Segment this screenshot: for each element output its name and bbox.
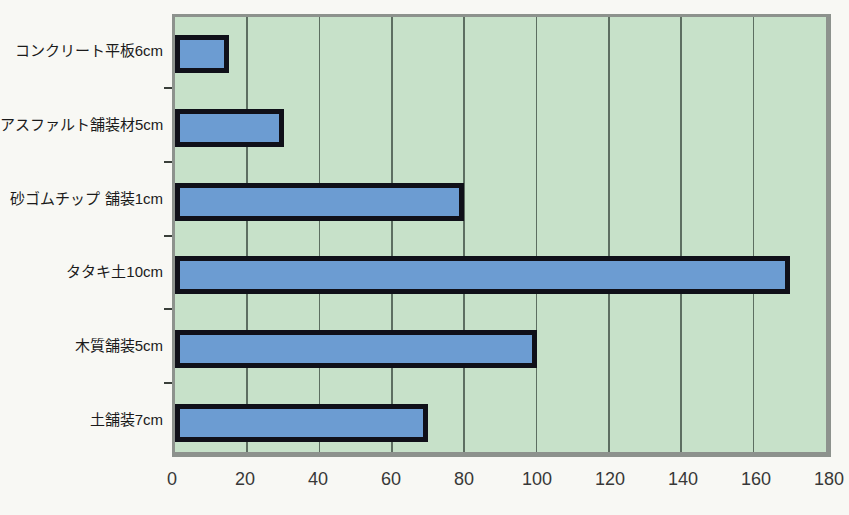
- category-axis-tick-1: [164, 87, 172, 89]
- bar-4: [175, 330, 537, 368]
- category-label-3: タタキ土10cm: [0, 262, 163, 282]
- x-tick-label-180: 180: [799, 469, 849, 490]
- gridline-120: [608, 17, 610, 452]
- category-label-2: 砂ゴムチップ 舗装1cm: [0, 189, 163, 209]
- category-axis-tick-5: [164, 382, 172, 384]
- category-label-0: コンクリート平板6cm: [0, 41, 163, 61]
- plot-area: [172, 14, 831, 457]
- x-tick-label-40: 40: [288, 469, 348, 490]
- gridline-100: [536, 17, 538, 452]
- gridline-160: [753, 17, 755, 452]
- x-tick-label-160: 160: [726, 469, 786, 490]
- bar-5: [175, 404, 428, 442]
- gridline-60: [391, 17, 393, 452]
- x-tick-label-80: 80: [434, 469, 494, 490]
- bar-0: [175, 35, 229, 73]
- category-label-1: アスファルト舗装材5cm: [0, 115, 163, 135]
- gridline-40: [319, 17, 321, 452]
- x-tick-label-0: 0: [142, 469, 202, 490]
- x-tick-label-100: 100: [507, 469, 567, 490]
- x-tick-label-20: 20: [215, 469, 275, 490]
- bar-chart: コンクリート平板6cmアスファルト舗装材5cm砂ゴムチップ 舗装1cmタタキ土1…: [0, 0, 849, 515]
- bar-2: [175, 183, 464, 221]
- category-label-4: 木質舗装5cm: [0, 336, 163, 356]
- bar-3: [175, 256, 790, 294]
- category-label-5: 土舗装7cm: [0, 410, 163, 430]
- gridline-20: [246, 17, 248, 452]
- x-tick-label-60: 60: [361, 469, 421, 490]
- category-axis-tick-2: [164, 161, 172, 163]
- category-axis-tick-3: [164, 235, 172, 237]
- x-tick-label-120: 120: [580, 469, 640, 490]
- bar-1: [175, 109, 284, 147]
- gridline-80: [463, 17, 465, 452]
- category-axis-tick-4: [164, 308, 172, 310]
- gridline-140: [680, 17, 682, 452]
- x-tick-label-140: 140: [653, 469, 713, 490]
